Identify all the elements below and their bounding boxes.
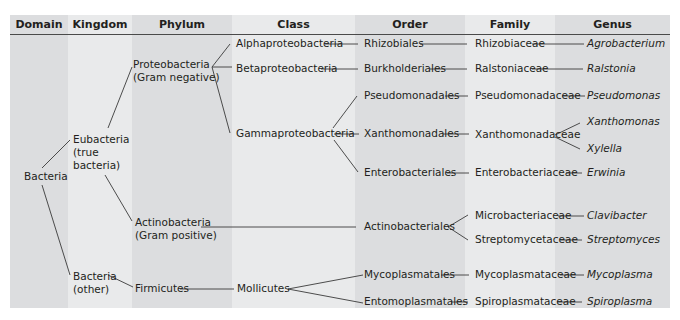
class-mollicutes: Mollicutes	[237, 282, 290, 295]
genus-xylella: Xylella	[587, 142, 622, 155]
order-entomoplasmatales: Entomoplasmatales	[364, 295, 468, 308]
family-ralstoniaceae: Ralstoniaceae	[475, 62, 549, 75]
class-betaproteobacteria: Betaproteobacteria	[236, 62, 338, 75]
order-mycoplasmatales: Mycoplasmatales	[364, 268, 455, 281]
genus-agrobacterium: Agrobacterium	[587, 37, 665, 50]
family-spiroplasmataceae: Spiroplasmataceae	[475, 295, 576, 308]
family-xanthomonadaceae: Xanthomonadaceae	[475, 128, 580, 141]
kingdom-eubacteria-line3: bacteria)	[73, 159, 129, 172]
domain-bacteria: Bacteria	[24, 170, 68, 183]
kingdom-eubacteria-line2: (true	[73, 146, 129, 159]
family-streptomycetaceae: Streptomycetaceae	[475, 233, 578, 246]
class-alphaproteobacteria: Alphaproteobacteria	[236, 37, 343, 50]
kingdom-eubacteria: Eubacteria (true bacteria)	[73, 133, 129, 172]
family-microbacteriaceae: Microbacteriaceae	[475, 209, 572, 222]
family-mycoplasmataceae: Mycoplasmataceae	[475, 268, 576, 281]
phylum-proteobacteria-line1: Proteobacteria	[133, 58, 220, 71]
phylum-proteobacteria: Proteobacteria (Gram negative)	[133, 58, 220, 84]
phylum-actinobacteria-line2: (Gram positive)	[135, 229, 217, 242]
family-pseudomonadaceae: Pseudomonadaceae	[475, 89, 581, 102]
phylum-proteobacteria-line2: (Gram negative)	[133, 71, 220, 84]
order-pseudomonadales: Pseudomonadales	[364, 89, 460, 102]
order-actinobacteriales: Actinobacteriales	[364, 220, 455, 233]
genus-streptomyces: Streptomyces	[587, 233, 660, 246]
genus-mycoplasma: Mycoplasma	[587, 268, 653, 281]
class-gammaproteobacteria: Gammaproteobacteria	[236, 127, 355, 140]
kingdom-bacteria-other-line2: (other)	[73, 283, 117, 296]
order-xanthomonadales: Xanthomonadales	[364, 127, 459, 140]
order-enterobacteriales: Enterobacteriales	[364, 166, 456, 179]
family-enterobacteriaceae: Enterobacteriaceae	[475, 166, 578, 179]
kingdom-bacteria-other: Bacteria (other)	[73, 270, 117, 296]
order-burkholderiales: Burkholderiales	[364, 62, 446, 75]
kingdom-eubacteria-line1: Eubacteria	[73, 133, 129, 146]
genus-spiroplasma: Spiroplasma	[587, 295, 652, 308]
phylum-firmicutes: Firmicutes	[135, 282, 189, 295]
phylum-actinobacteria: Actinobacteria (Gram positive)	[135, 216, 217, 242]
genus-pseudomonas: Pseudomonas	[587, 89, 660, 102]
genus-xanthomonas: Xanthomonas	[587, 115, 660, 128]
kingdom-bacteria-other-line1: Bacteria	[73, 270, 117, 283]
order-rhizobiales: Rhizobiales	[364, 37, 424, 50]
phylum-actinobacteria-line1: Actinobacteria	[135, 216, 217, 229]
genus-ralstonia: Ralstonia	[587, 62, 636, 75]
genus-erwinia: Erwinia	[587, 166, 625, 179]
family-rhizobiaceae: Rhizobiaceae	[475, 37, 545, 50]
genus-clavibacter: Clavibacter	[587, 209, 647, 222]
